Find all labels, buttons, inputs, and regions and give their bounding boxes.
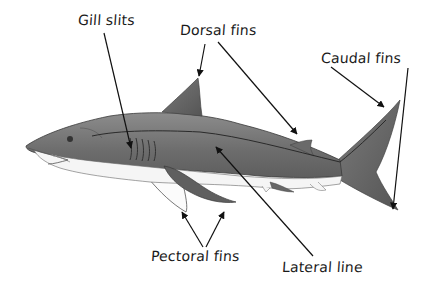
dorsal-fin-first	[162, 78, 202, 116]
arrow-caudal-upper	[331, 67, 384, 107]
label-caudal-fins: Caudal fins	[320, 50, 401, 66]
label-dorsal-fins: Dorsal fins	[179, 22, 257, 38]
arrow-pectoral-left	[182, 212, 203, 247]
shark-anatomy-diagram: Gill slits Dorsal fins Caudal fins Pecto…	[0, 0, 428, 291]
arrow-pectoral-right	[206, 212, 224, 247]
label-pectoral-fins: Pectoral fins	[150, 248, 240, 264]
arrow-caudal-lower	[393, 68, 408, 209]
arrow-dorsal-fin-first	[199, 44, 205, 76]
arrow-dorsal-fin-second	[218, 42, 297, 134]
shark-eye	[67, 136, 73, 142]
label-lateral-line: Lateral line	[281, 259, 363, 275]
caudal-fin	[338, 100, 400, 210]
label-gill-slits: Gill slits	[77, 12, 135, 28]
